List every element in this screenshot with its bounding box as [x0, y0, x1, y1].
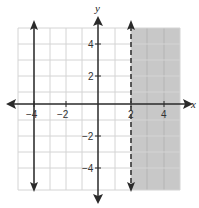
- y-tick-label: −2: [82, 131, 94, 142]
- x-tick-label: 2: [128, 109, 134, 120]
- x-tick-label: −2: [57, 109, 69, 120]
- y-axis-label: y: [94, 2, 100, 14]
- y-tick-label: −4: [82, 163, 94, 174]
- x-tick-label: −4: [26, 109, 38, 120]
- y-tick-label: 2: [88, 71, 94, 82]
- coordinate-plane: x y −4 −2 2 4 4 2 −2 −4: [0, 0, 199, 208]
- y-tick-label: 4: [88, 39, 94, 50]
- solid-line-x-neg4: [30, 20, 38, 192]
- x-tick-label: 4: [161, 109, 167, 120]
- x-axis-label: x: [190, 98, 196, 110]
- shaded-region: [131, 28, 180, 190]
